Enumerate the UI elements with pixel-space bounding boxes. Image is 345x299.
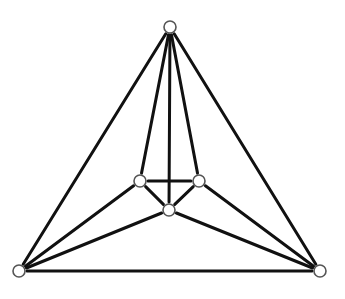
edge-top-bottom-left — [23, 34, 166, 264]
edge-inner-left-inner-bottom — [146, 187, 164, 205]
node-inner-bottom — [163, 204, 175, 216]
node-inner-right — [193, 175, 205, 187]
edge-top-inner-bottom — [169, 35, 170, 202]
edge-bottom-left-inner-bottom — [26, 213, 161, 268]
edge-top-inner-left — [142, 35, 169, 173]
node-bottom-left — [13, 265, 25, 277]
edge-bottom-right-inner-right — [205, 186, 313, 266]
edge-top-inner-right — [171, 35, 197, 173]
edges-group — [23, 34, 316, 271]
edge-top-bottom-right — [174, 34, 316, 264]
node-inner-left — [134, 175, 146, 187]
node-top — [164, 21, 176, 33]
edge-bottom-right-inner-bottom — [176, 213, 312, 268]
edge-bottom-left-inner-left — [25, 186, 133, 266]
graph-diagram — [0, 0, 345, 299]
edge-inner-right-inner-bottom — [175, 187, 193, 205]
node-bottom-right — [314, 265, 326, 277]
